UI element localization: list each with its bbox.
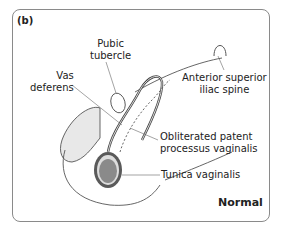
label-line: tubercle bbox=[90, 50, 131, 62]
label-obliterated-processus: Obliterated patent processus vaginalis bbox=[160, 131, 258, 155]
label-asis: Anterior superior iliac spine bbox=[182, 72, 267, 96]
label-line: deferens bbox=[30, 82, 74, 94]
label-line: Vas bbox=[30, 70, 74, 82]
label-vas-deferens: Vas deferens bbox=[30, 70, 74, 94]
penis-shape bbox=[60, 107, 100, 162]
label-line: Pubic bbox=[90, 38, 131, 50]
asis-outline bbox=[214, 46, 226, 57]
label-line: Anterior superior bbox=[182, 72, 267, 84]
testis-shape bbox=[99, 159, 117, 183]
label-pubic-tubercle: Pubic tubercle bbox=[90, 38, 131, 62]
label-line: Obliterated patent bbox=[160, 131, 258, 143]
label-line: iliac spine bbox=[182, 84, 267, 96]
panel-label: (b) bbox=[17, 15, 33, 26]
label-line: processus vaginalis bbox=[160, 143, 258, 155]
label-tunica-vaginalis: Tunica vaginalis bbox=[161, 169, 240, 181]
pubic-tubercle-shape bbox=[109, 92, 128, 115]
condition-label: Normal bbox=[218, 196, 263, 209]
